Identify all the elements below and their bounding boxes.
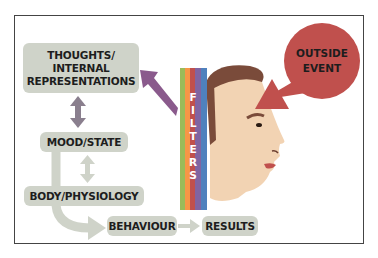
filter-letter: R [189, 156, 197, 168]
filter-letter: F [189, 91, 196, 103]
svg-text:EVENT: EVENT [303, 62, 342, 74]
eye [256, 123, 262, 127]
node-mood-state: MOOD/STATE [40, 132, 128, 152]
node-thoughts: THOUGHTS/ INTERNAL REPRESENTATIONS [23, 43, 139, 93]
filter-letter: L [190, 117, 197, 129]
node-results-label: RESULTS [205, 220, 255, 233]
node-results: RESULTS [202, 216, 258, 236]
filter-letter: S [189, 169, 197, 181]
filter-letter: E [189, 143, 196, 155]
node-body-physiology: BODY/PHYSIOLOGY [24, 186, 144, 206]
diagram-graphics: F I L T E R S OUTSIDE EVENT [0, 0, 378, 258]
double-arrow-mood-body [80, 155, 95, 183]
node-body-label: BODY/PHYSIOLOGY [29, 190, 138, 203]
arrow-filters-thoughts [140, 70, 178, 116]
node-behaviour-label: BEHAVIOUR [108, 220, 175, 233]
filter-letter: T [189, 130, 197, 142]
arrow-behaviour-results [178, 219, 200, 233]
filters-bar: F I L T E R S [180, 68, 207, 210]
node-thoughts-label: THOUGHTS/ INTERNAL REPRESENTATIONS [27, 49, 136, 88]
double-arrow-thoughts-mood [70, 96, 86, 128]
node-behaviour: BEHAVIOUR [107, 216, 177, 236]
filter-letter: I [191, 104, 195, 116]
outside-event-bubble: OUTSIDE EVENT [255, 23, 360, 109]
node-mood-label: MOOD/STATE [47, 136, 121, 149]
svg-text:OUTSIDE: OUTSIDE [296, 47, 348, 59]
